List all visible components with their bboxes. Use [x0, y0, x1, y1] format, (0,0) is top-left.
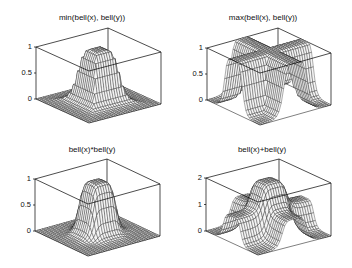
figure: min(bell(x), bell(y)) 0 0.5 1 max(bell(x…: [0, 0, 352, 268]
z-tick-label: 1: [182, 200, 202, 209]
subplot-title: bell(x)+bell(y): [238, 145, 286, 154]
z-tick-label: 0: [182, 226, 202, 235]
z-tick-label: 2: [182, 173, 202, 182]
surface-plot-sum: [0, 0, 352, 268]
